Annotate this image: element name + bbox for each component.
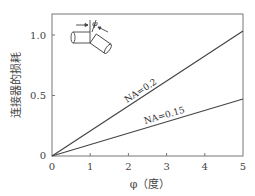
y-tick-label: 0 <box>40 150 46 161</box>
loss-vs-angle-chart: 1.0 0.5 0 0 1 2 3 4 5 φ（度） 连接器的损耗 NA=0.2… <box>0 0 255 196</box>
x-axis-title: φ（度） <box>130 177 171 191</box>
x-tick-label: 5 <box>240 161 246 172</box>
series-label-na-0-2: NA=0.2 <box>123 77 159 105</box>
x-tick-label: 4 <box>202 161 208 172</box>
inset-phi-symbol: φ <box>92 19 98 28</box>
y-tick-label: 0.5 <box>30 90 46 101</box>
y-axis-title: 连接器的损耗 <box>9 52 23 118</box>
x-tick-label: 0 <box>49 161 55 172</box>
series-line-na-0-15 <box>52 99 243 156</box>
y-axis: 1.0 0.5 0 <box>30 30 55 161</box>
x-tick-label: 2 <box>125 161 131 172</box>
series-line-na-0-2 <box>52 31 243 156</box>
x-tick-label: 1 <box>87 161 93 172</box>
x-tick-label: 3 <box>163 161 169 172</box>
y-tick-label: 1.0 <box>30 30 46 41</box>
